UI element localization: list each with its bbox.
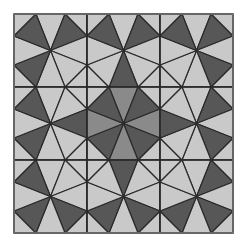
tile-cell bbox=[87, 14, 160, 87]
tiling-figure bbox=[0, 0, 247, 249]
tile-cell bbox=[160, 87, 233, 160]
tile-cell bbox=[160, 160, 233, 233]
tile-cell bbox=[160, 14, 233, 87]
tile-cell bbox=[14, 160, 87, 233]
tile-cell bbox=[14, 87, 87, 160]
tile-cell bbox=[14, 14, 87, 87]
tile-cell bbox=[87, 87, 160, 160]
tile-cell bbox=[87, 160, 160, 233]
tile-grid bbox=[14, 14, 233, 233]
